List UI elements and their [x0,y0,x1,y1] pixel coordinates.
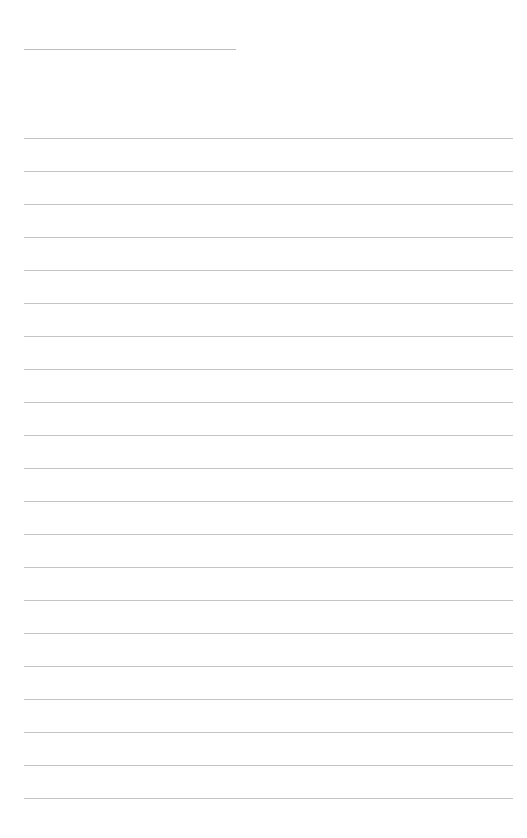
title-line[interactable] [24,49,236,50]
ruled-line[interactable] [24,732,513,765]
ruled-line[interactable] [24,138,513,171]
ruled-line[interactable] [24,567,513,600]
ruled-lines [24,138,513,831]
ruled-line[interactable] [24,402,513,435]
ruled-line[interactable] [24,336,513,369]
ruled-line[interactable] [24,798,513,831]
ruled-line[interactable] [24,369,513,402]
ruled-line[interactable] [24,501,513,534]
ruled-line[interactable] [24,204,513,237]
ruled-line[interactable] [24,600,513,633]
ruled-line[interactable] [24,699,513,732]
ruled-line[interactable] [24,666,513,699]
ruled-line[interactable] [24,765,513,798]
ruled-line[interactable] [24,237,513,270]
ruled-line[interactable] [24,534,513,567]
ruled-line[interactable] [24,633,513,666]
ruled-line[interactable] [24,468,513,501]
ruled-line[interactable] [24,435,513,468]
ruled-line[interactable] [24,171,513,204]
ruled-line[interactable] [24,270,513,303]
ruled-line[interactable] [24,303,513,336]
